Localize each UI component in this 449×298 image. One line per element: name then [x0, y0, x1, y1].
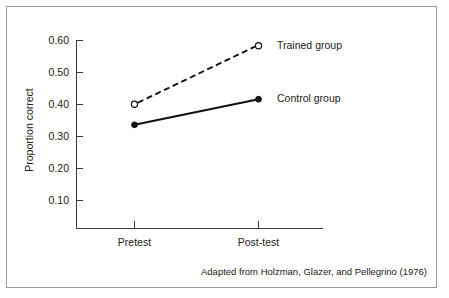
x-tick-label-post-test: Post-test [238, 236, 280, 248]
axis-lines [77, 40, 324, 229]
figure-caption: Adapted from Holzman, Glazer, and Pelleg… [201, 266, 427, 277]
y-tick-label-0.20: 0.20 [49, 162, 70, 174]
x-axis-ticks [135, 221, 259, 229]
data-point-control-post-test [256, 96, 262, 102]
data-point-trained-pretest [131, 101, 137, 107]
y-tick-label-0.60: 0.60 [49, 34, 70, 46]
y-tick-label-0.10: 0.10 [49, 194, 70, 206]
y-tick-label-0.30: 0.30 [49, 130, 70, 142]
series-label-trained-group: Trained group [277, 39, 342, 51]
line-chart: Proportion correct 0.60 0.50 0.40 0.30 0… [0, 0, 449, 298]
series-trained-group-line [138, 47, 255, 103]
y-axis-label: Proportion correct [23, 88, 35, 172]
y-tick-label-0.40: 0.40 [49, 98, 70, 110]
series-control-group-line [135, 99, 259, 125]
series-control-group [132, 96, 262, 127]
x-tick-label-pretest: Pretest [118, 236, 151, 248]
figure-panel: Proportion correct 0.60 0.50 0.40 0.30 0… [0, 0, 449, 298]
data-point-control-pretest [132, 122, 138, 128]
series-trained-group [131, 43, 261, 108]
y-tick-label-0.50: 0.50 [49, 66, 70, 78]
data-point-trained-post-test [255, 43, 261, 49]
y-axis-ticks [77, 41, 84, 201]
series-label-control-group: Control group [277, 92, 341, 104]
